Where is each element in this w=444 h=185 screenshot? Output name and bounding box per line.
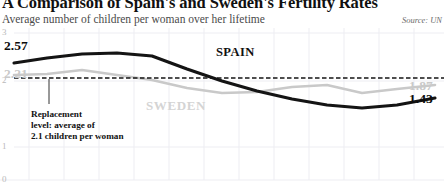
y-axis-tick-1: 1 <box>2 141 7 151</box>
replacement-annotation: Replacement level: average of 2.1 childr… <box>31 109 124 143</box>
chart-figure: A Comparison of Spain's and Sweden's Fer… <box>0 0 444 185</box>
replacement-annotation-line-1: Replacement <box>31 109 124 120</box>
series-label-sweden: SWEDEN <box>146 98 206 114</box>
sweden-start-value: 2.21 <box>4 66 28 82</box>
spain-start-value: 2.57 <box>4 38 28 54</box>
replacement-annotation-line-3: 2.1 children per woman <box>31 131 124 142</box>
y-axis-tick-3: 3 <box>2 27 7 37</box>
spain-end-value: 1.43 <box>409 91 433 107</box>
series-label-spain: SPAIN <box>216 45 255 60</box>
chart-subtitle: Average number of children per woman ove… <box>2 13 265 25</box>
source-credit: Source: UN <box>402 15 442 25</box>
chart-title: A Comparison of Spain's and Sweden's Fer… <box>2 0 442 11</box>
replacement-annotation-line-2: level: average of <box>31 120 124 131</box>
plot-area: 3 2 1 0 2.57 2.21 1.87 1.43 SPAIN SWEDEN… <box>0 28 444 185</box>
y-axis-tick-0: 0 <box>2 174 7 184</box>
